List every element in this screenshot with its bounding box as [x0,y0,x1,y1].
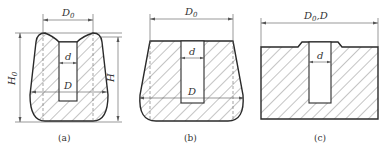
forging-diagram: D0 d D H0 [0,0,385,155]
panel-a: D0 d D H0 [6,7,122,143]
dimension-d0-a: D0 [43,7,93,22]
dimension-d0-D-c: D0,D [261,10,378,25]
svg-text:D0: D0 [184,6,198,19]
panel-c: D0,D d (c) [261,10,378,143]
svg-text:d: d [317,50,323,61]
svg-text:d: d [189,46,195,57]
svg-text:H: H [105,73,116,83]
svg-text:H0: H0 [6,71,19,86]
caption-a: (a) [58,133,70,143]
svg-text:D0: D0 [61,7,75,20]
svg-text:d: d [65,51,71,62]
caption-c: (c) [314,133,326,143]
dimension-h0-a: H0 [6,33,22,122]
dimension-d0-b: D0 [150,6,233,21]
panel-b: D0 d D (b) [139,6,244,143]
svg-text:D0,D: D0,D [303,10,328,23]
caption-b: (b) [184,133,197,143]
svg-text:D: D [63,80,72,91]
svg-text:D: D [187,86,196,97]
